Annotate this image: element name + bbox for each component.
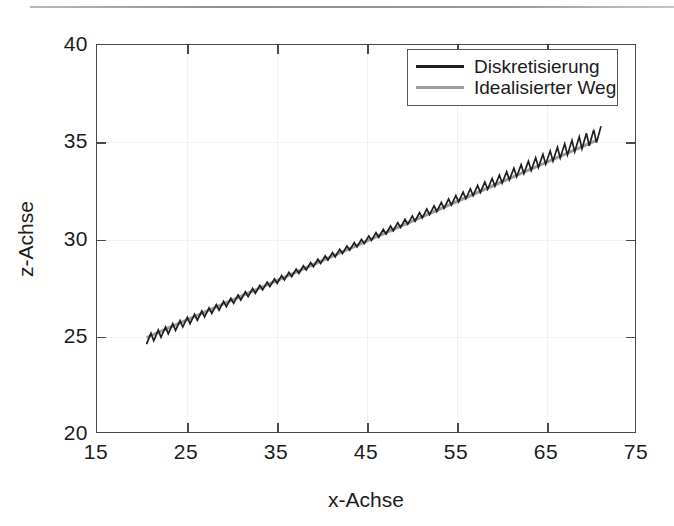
legend-item-diskretisierung: Diskretisierung [416,56,609,77]
x-tick-label: 35 [264,440,288,464]
x-tick-label: 45 [354,440,378,464]
x-tick-label: 55 [444,440,468,464]
legend-swatch-dark-icon [416,65,464,68]
y-tick-label: 30 [64,227,88,251]
y-axis-title: z-Achse [14,201,38,277]
x-axis-title: x-Achse [328,488,404,512]
x-tick-label: 15 [84,440,108,464]
y-tick-label: 35 [64,129,88,153]
legend-item-idealisierter-weg: Idealisierter Weg [416,77,609,98]
series-diskretisierung [147,126,602,344]
chart-figure: 40 35 30 25 20 15 25 35 45 55 65 75 x-Ac… [0,0,674,526]
legend-swatch-light-icon [416,86,464,89]
plot-area: Diskretisierung Idealisierter Weg [96,44,636,433]
y-tick-label: 25 [64,324,88,348]
legend-label: Idealisierter Weg [474,78,616,97]
legend-label: Diskretisierung [474,57,600,76]
y-tick-label: 40 [64,32,88,56]
x-tick-label: 65 [534,440,558,464]
chart-legend: Diskretisierung Idealisierter Weg [407,49,618,106]
x-tick-label: 75 [624,440,648,464]
x-tick-label: 25 [174,440,198,464]
